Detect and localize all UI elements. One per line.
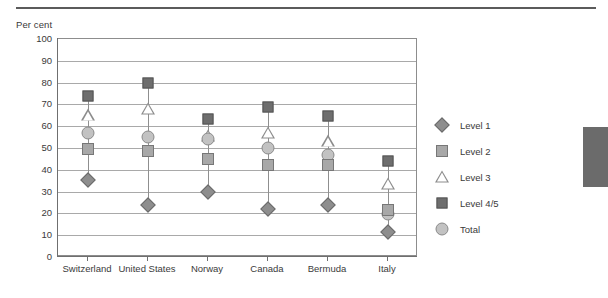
y-axis-tick-label: 50 (41, 142, 52, 153)
marker-level-1 (140, 197, 156, 213)
marker-level-1 (260, 201, 276, 217)
triangle-outline-icon (435, 170, 449, 182)
plot-area (57, 38, 417, 256)
x-axis-category-label: Norway (191, 263, 223, 274)
range-connector (388, 161, 389, 232)
square-light-icon (436, 145, 448, 157)
x-axis-tick (147, 256, 148, 261)
marker-level-4-5 (263, 101, 274, 112)
circle-icon (436, 223, 449, 236)
y-axis-tick-label: 90 (41, 54, 52, 65)
gridline (58, 192, 416, 193)
legend-item-label: Level 3 (460, 172, 491, 183)
legend-item[interactable]: Level 4/5 (434, 190, 554, 216)
x-axis-category-label: United States (118, 263, 175, 274)
y-axis-tick-label: 60 (41, 120, 52, 131)
marker-level-4-5 (83, 90, 94, 101)
diamond-icon (434, 117, 450, 133)
marker-level-4-5 (383, 156, 394, 167)
marker-level-1 (80, 172, 96, 188)
legend-item-label: Level 2 (460, 146, 491, 157)
y-axis-unit-label: Per cent (16, 19, 52, 30)
marker-level-1 (320, 197, 336, 213)
y-axis-tick-label: 100 (36, 33, 52, 44)
marker-level-2 (322, 159, 334, 171)
x-axis-category-label: Bermuda (308, 263, 347, 274)
marker-level-2 (202, 153, 214, 165)
legend-item[interactable]: Level 2 (434, 138, 554, 164)
legend-item-label: Level 1 (460, 120, 491, 131)
marker-level-2 (262, 159, 274, 171)
range-connector (268, 107, 269, 209)
legend-item[interactable]: Level 3 (434, 164, 554, 190)
x-axis-category-label: Italy (378, 263, 395, 274)
x-axis-category-label: Canada (250, 263, 283, 274)
marker-level-1 (200, 184, 216, 200)
y-axis-tick-labels: 0102030405060708090100 (20, 38, 52, 256)
y-axis-tick-label: 70 (41, 98, 52, 109)
x-axis-tick (87, 256, 88, 261)
legend-item-label: Level 4/5 (460, 198, 499, 209)
marker-level-3 (81, 109, 95, 121)
x-axis-tick (267, 256, 268, 261)
marker-level-2 (142, 145, 154, 157)
gridline (58, 170, 416, 171)
page-edge-tab (583, 127, 608, 187)
marker-level-3 (381, 177, 395, 189)
marker-level-4-5 (143, 77, 154, 88)
y-axis-tick-label: 0 (47, 251, 52, 262)
x-axis-tick (207, 256, 208, 261)
x-axis-spine (57, 256, 417, 257)
y-axis-tick-label: 20 (41, 207, 52, 218)
marker-level-1 (380, 224, 396, 240)
marker-level-3 (321, 135, 335, 147)
y-axis-tick-label: 80 (41, 76, 52, 87)
gridline (58, 148, 416, 149)
x-axis-tick (387, 256, 388, 261)
y-axis-tick-label: 10 (41, 229, 52, 240)
y-axis-tick-label: 30 (41, 185, 52, 196)
x-axis-tick (327, 256, 328, 261)
gridline (58, 235, 416, 236)
marker-total (82, 126, 95, 139)
header-rule (16, 7, 596, 9)
gridline (58, 126, 416, 127)
marker-level-2 (82, 143, 94, 155)
y-axis-spine (57, 38, 58, 257)
gridline (58, 83, 416, 84)
gridline (58, 61, 416, 62)
y-axis-tick-label: 40 (41, 163, 52, 174)
marker-total (202, 133, 215, 146)
gridline (58, 213, 416, 214)
gridline (58, 104, 416, 105)
marker-total (262, 142, 275, 155)
legend-item[interactable]: Total (434, 216, 554, 242)
marker-level-3 (261, 126, 275, 138)
chart-legend: Level 1Level 2Level 3Level 4/5Total (434, 112, 554, 242)
square-dark-icon (437, 198, 448, 209)
marker-level-3 (141, 102, 155, 114)
marker-level-4-5 (203, 113, 214, 124)
legend-item[interactable]: Level 1 (434, 112, 554, 138)
marker-level-4-5 (323, 111, 334, 122)
marker-level-2 (382, 204, 394, 216)
legend-item-label: Total (460, 224, 480, 235)
range-connector (148, 83, 149, 205)
x-axis-category-label: Switzerland (62, 263, 111, 274)
marker-total (142, 131, 155, 144)
